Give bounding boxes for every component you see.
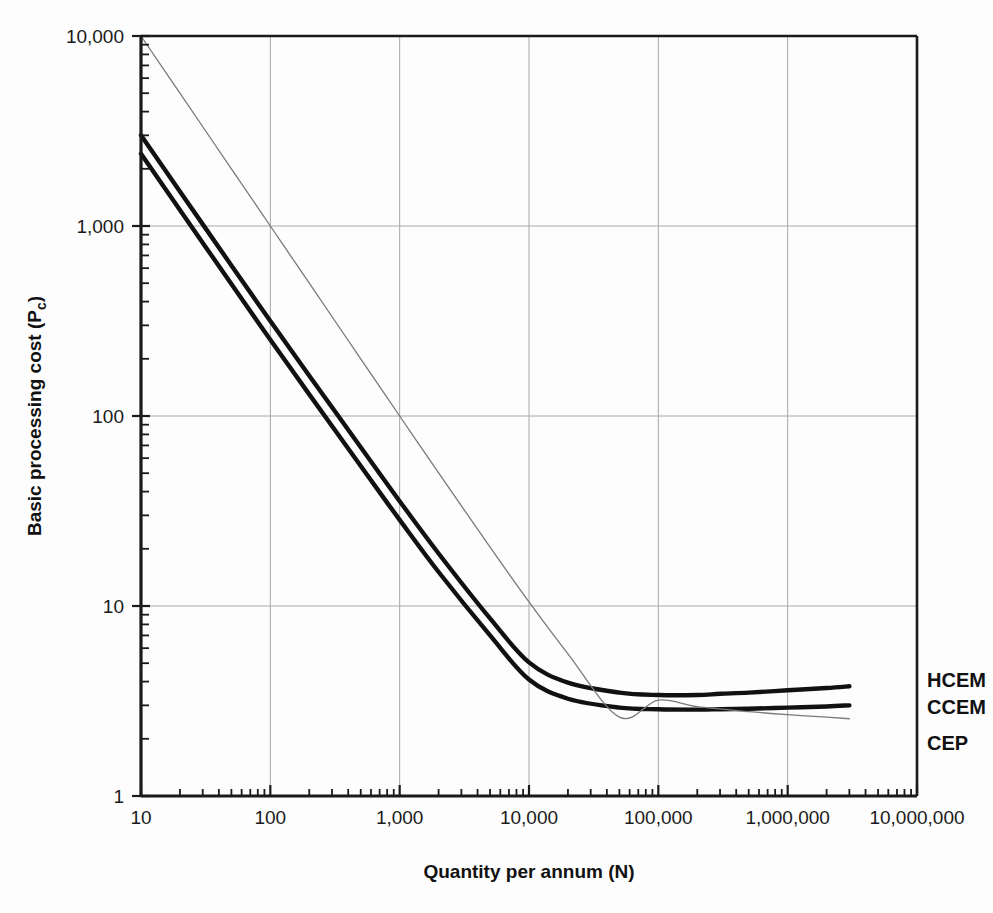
chart-background bbox=[0, 0, 993, 913]
x-tick-label: 1,000,000 bbox=[745, 807, 830, 828]
series-label-cep: CEP bbox=[927, 732, 968, 754]
x-axis-title: Quantity per annum (N) bbox=[423, 861, 634, 882]
x-tick-label: 10 bbox=[130, 807, 151, 828]
y-tick-label: 10 bbox=[103, 596, 124, 617]
x-tick-label: 1,000 bbox=[376, 807, 424, 828]
chart-figure: 101001,00010,000100,0001,000,00010,000,0… bbox=[0, 0, 993, 913]
y-tick-label: 1 bbox=[113, 786, 124, 807]
x-tick-label: 10,000 bbox=[500, 807, 558, 828]
chart-svg: 101001,00010,000100,0001,000,00010,000,0… bbox=[0, 0, 993, 913]
x-tick-label: 100,000 bbox=[624, 807, 693, 828]
y-axis-title-end: ) bbox=[24, 296, 45, 302]
series-label-hcem: HCEM bbox=[927, 669, 986, 691]
y-axis-title-main: Basic processing cost (P bbox=[24, 310, 45, 536]
y-tick-label: 100 bbox=[92, 406, 124, 427]
y-axis-title-subscript: c bbox=[33, 302, 49, 310]
y-tick-label: 10,000 bbox=[66, 26, 124, 47]
series-label-ccem: CCEM bbox=[927, 696, 986, 718]
y-tick-label: 1,000 bbox=[76, 216, 124, 237]
x-tick-label: 10,000,000 bbox=[869, 807, 964, 828]
x-tick-label: 100 bbox=[254, 807, 286, 828]
